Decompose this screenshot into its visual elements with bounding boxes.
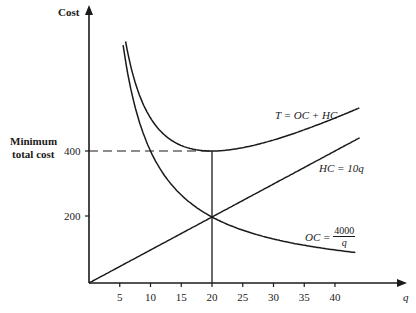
y-axis-arrow-icon xyxy=(85,5,93,15)
x-tick-label: 5 xyxy=(110,291,130,303)
x-tick-label: 35 xyxy=(294,291,314,303)
ordering-cost-label: OC = 4000 q xyxy=(305,225,355,248)
x-tick-label: 30 xyxy=(264,291,284,303)
total-cost-label: T = OC + HC xyxy=(275,109,337,121)
x-axis-label: q xyxy=(403,291,409,303)
ordering-cost-fraction: 4000 q xyxy=(333,225,355,248)
x-tick-label: 15 xyxy=(171,291,191,303)
x-tick-label: 10 xyxy=(141,291,161,303)
x-tick-label: 40 xyxy=(325,291,345,303)
min-cost-label-line2: total cost xyxy=(12,148,54,160)
fraction-numerator: 4000 xyxy=(333,225,355,237)
x-tick-label: 20 xyxy=(202,291,222,303)
holding-cost-line xyxy=(89,138,360,283)
y-axis-label: Cost xyxy=(58,6,79,18)
total-cost-curve xyxy=(126,42,360,152)
eoq-cost-chart xyxy=(0,0,416,313)
min-cost-label-line1: Minimum xyxy=(10,135,57,147)
holding-cost-label: HC = 10q xyxy=(319,162,364,174)
x-tick-label: 25 xyxy=(233,291,253,303)
y-tick-label-400: 400 xyxy=(64,145,81,157)
y-tick-label-200: 200 xyxy=(64,210,81,222)
x-axis-arrow-icon xyxy=(397,279,407,287)
fraction-denominator: q xyxy=(342,237,347,248)
ordering-cost-prefix: OC = xyxy=(305,231,330,243)
